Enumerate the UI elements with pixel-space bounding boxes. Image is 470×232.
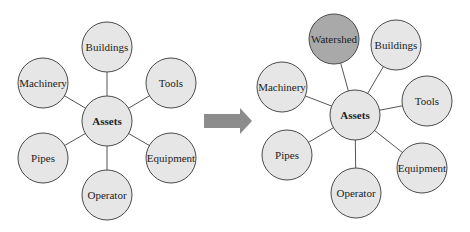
right-arrow-icon [204, 108, 252, 134]
left-diagram: Buildings Tools Equipment Operator Pipes… [18, 22, 196, 220]
left-node-tools: Tools [146, 58, 196, 108]
svg-text:Assets: Assets [92, 115, 122, 127]
right-node-pipes: Pipes [262, 130, 312, 180]
right-node-buildings: Buildings [371, 20, 421, 70]
svg-text:Pipes: Pipes [275, 149, 299, 161]
svg-text:Tools: Tools [159, 77, 183, 89]
right-node-watershed: Watershed [309, 14, 359, 64]
left-node-pipes: Pipes [18, 133, 68, 183]
left-node-operator: Operator [82, 170, 132, 220]
svg-text:Operator: Operator [87, 189, 126, 201]
left-node-buildings: Buildings [82, 22, 132, 72]
right-node-equipment: Equipment [397, 143, 447, 193]
svg-text:Machinery: Machinery [19, 77, 67, 89]
right-node-operator: Operator [331, 168, 381, 218]
svg-text:Watershed: Watershed [311, 33, 358, 45]
left-node-machinery: Machinery [18, 58, 68, 108]
left-node-equipment: Equipment [146, 133, 196, 183]
svg-text:Pipes: Pipes [31, 152, 55, 164]
svg-text:Buildings: Buildings [86, 41, 129, 53]
svg-text:Buildings: Buildings [375, 39, 418, 51]
diagram-canvas: Buildings Tools Equipment Operator Pipes… [0, 0, 470, 232]
right-diagram: Watershed Buildings Tools Equipment Oper… [257, 14, 452, 218]
svg-text:Assets: Assets [340, 109, 370, 121]
svg-text:Equipment: Equipment [147, 152, 195, 164]
left-node-assets: Assets [82, 96, 132, 146]
svg-text:Equipment: Equipment [398, 162, 446, 174]
right-node-machinery: Machinery [257, 62, 307, 112]
right-node-assets: Assets [330, 90, 380, 140]
right-node-tools: Tools [402, 76, 452, 126]
svg-text:Machinery: Machinery [258, 81, 306, 93]
svg-text:Tools: Tools [415, 95, 439, 107]
svg-text:Operator: Operator [336, 187, 375, 199]
